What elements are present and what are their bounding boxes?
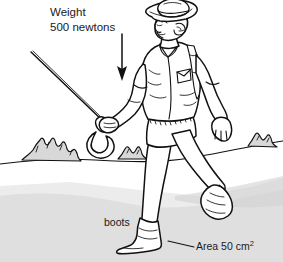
bush-left <box>22 138 81 161</box>
area-label-text: Area 50 cm <box>196 240 250 252</box>
weight-label-line1: Weight <box>50 6 86 18</box>
area-label: Area 50 cm2 <box>196 239 254 252</box>
down-arrow-icon <box>117 34 127 81</box>
area-label-exponent: 2 <box>250 239 254 248</box>
weight-label-line2: 500 newtons <box>50 21 115 33</box>
bush-center <box>118 147 147 159</box>
bush-right <box>248 133 277 147</box>
physics-pressure-figure: Weight 500 newtons boots Area 50 cm2 <box>0 0 283 262</box>
boots-label: boots <box>104 216 130 228</box>
figure-canvas: Weight 500 newtons boots Area 50 cm2 <box>0 0 283 262</box>
